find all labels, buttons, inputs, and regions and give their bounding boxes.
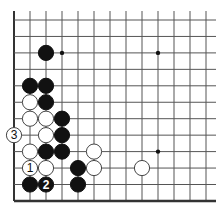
- go-board: 312: [0, 0, 222, 212]
- white-stone: [22, 144, 37, 159]
- white-stone-move-3: 3: [6, 128, 21, 143]
- star-point-icon: [156, 149, 160, 153]
- black-stone-move-2: 2: [38, 177, 53, 192]
- black-stone: [22, 177, 37, 192]
- move-number-label: 3: [11, 128, 18, 142]
- black-stone: [38, 144, 53, 159]
- white-stone: [86, 144, 101, 159]
- move-number-label: 2: [43, 178, 50, 192]
- black-stone: [22, 78, 37, 93]
- black-stone: [54, 111, 69, 126]
- black-stone: [38, 95, 53, 110]
- black-stone: [70, 177, 85, 192]
- black-stone: [38, 45, 53, 60]
- star-point-icon: [60, 51, 64, 55]
- white-stone: [134, 160, 149, 175]
- white-stone: [22, 95, 37, 110]
- black-stone: [54, 144, 69, 159]
- white-stone: [38, 160, 53, 175]
- white-stone: [38, 111, 53, 126]
- star-point-icon: [156, 51, 160, 55]
- black-stone: [70, 160, 85, 175]
- white-stone: [22, 111, 37, 126]
- white-stone-move-1: 1: [22, 160, 37, 175]
- black-stone: [54, 128, 69, 143]
- white-stone: [86, 160, 101, 175]
- white-stone: [38, 128, 53, 143]
- move-number-label: 1: [27, 161, 34, 175]
- black-stone: [38, 78, 53, 93]
